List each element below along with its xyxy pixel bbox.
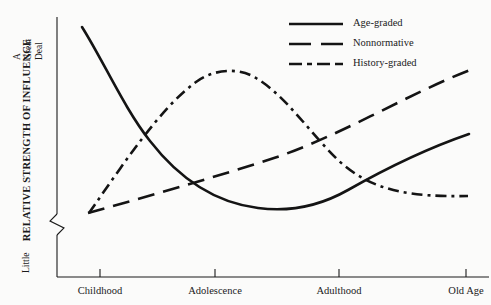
legend-label-nonnormative: Nonnormative [345, 37, 414, 48]
legend-item-nonnormative: Nonnormative [287, 32, 487, 52]
x-tick-label-adulthood: Adulthood [317, 284, 362, 298]
legend-swatch-solid [287, 16, 345, 28]
legend-item-age-graded: Age-graded [287, 12, 487, 32]
legend-label-history-graded: History-graded [345, 57, 417, 68]
legend-label-age-graded: Age-graded [345, 17, 403, 28]
legend-swatch-long-dash [287, 36, 345, 48]
curve-nonnormative [88, 70, 470, 213]
x-tick-label-childhood: Childhood [78, 284, 122, 298]
figure-container: RELATIVE STRENGTH OF INFLUENCE A Great D… [0, 0, 491, 305]
curve-history-graded [89, 71, 468, 213]
legend-swatch-dash-dot [287, 56, 345, 68]
legend-item-history-graded: History-graded [287, 52, 487, 72]
legend: Age-graded Nonnormative History-graded [287, 12, 487, 72]
x-tick-label-old-age: Old Age [448, 284, 483, 298]
y-axis-break-zigzag [50, 214, 64, 235]
x-tick-label-adolescence: Adolescence [188, 284, 242, 298]
